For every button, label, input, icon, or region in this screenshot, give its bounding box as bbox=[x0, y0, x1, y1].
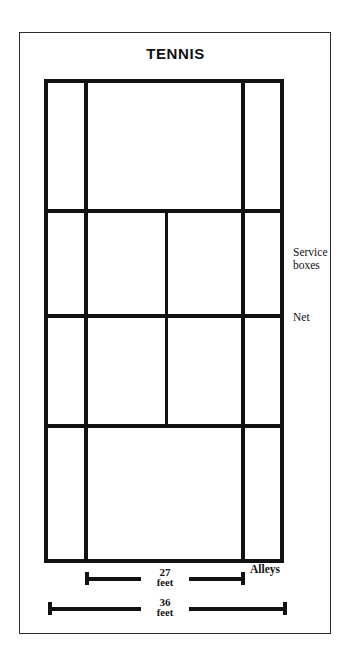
dimension-width-singles: 27 feet bbox=[0, 566, 351, 592]
court-line-top-baseline bbox=[44, 79, 284, 83]
court-line-left-singles-sideline bbox=[84, 79, 88, 563]
dimension-cap-right bbox=[283, 602, 287, 615]
dimension-label-27: 27 feet bbox=[140, 567, 190, 589]
dimension-bar-right bbox=[189, 577, 245, 581]
court-line-left-doubles-sideline bbox=[44, 79, 48, 563]
dimension-bar-left bbox=[85, 577, 141, 581]
dimension-width-doubles: 36 feet bbox=[0, 596, 351, 622]
court-line-right-singles-sideline bbox=[241, 79, 245, 563]
court-line-top-service-line bbox=[44, 209, 284, 213]
dimension-bar-right bbox=[189, 607, 284, 611]
court-line-bottom-baseline bbox=[44, 559, 284, 563]
label-service-boxes: Service boxes bbox=[293, 246, 327, 272]
dimension-cap-right bbox=[241, 572, 245, 585]
dimension-label-36: 36 feet bbox=[140, 597, 190, 619]
court-line-right-doubles-sideline bbox=[280, 79, 284, 563]
court-line-net bbox=[44, 314, 284, 318]
label-service-boxes-line2: boxes bbox=[293, 259, 320, 271]
tennis-court-diagram: TENNIS Service boxes Net Alleys 27 feet bbox=[0, 0, 351, 655]
dimension-unit-36: feet bbox=[140, 608, 190, 619]
court-line-center-service-line bbox=[165, 209, 168, 424]
label-service-boxes-line1: Service bbox=[293, 246, 327, 258]
court-line-bottom-service-line bbox=[44, 424, 284, 428]
page-title: TENNIS bbox=[0, 45, 351, 62]
dimension-bar-left bbox=[48, 607, 141, 611]
dimension-unit-27: feet bbox=[140, 578, 190, 589]
tennis-court bbox=[44, 79, 284, 563]
label-net: Net bbox=[293, 311, 310, 324]
